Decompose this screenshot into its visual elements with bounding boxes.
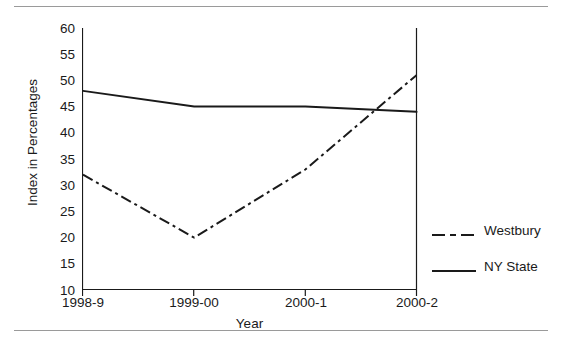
legend-label-westbury: Westbury xyxy=(484,223,541,238)
figure: 60 55 50 45 40 35 30 25 20 15 10 Index i… xyxy=(0,0,561,347)
y-tick-label: 30 xyxy=(45,179,75,193)
y-tick-label: 55 xyxy=(45,48,75,62)
y-tick-label: 25 xyxy=(45,205,75,219)
chart-legend: Westbury NY State xyxy=(432,216,557,288)
x-tick-label: 1999-00 xyxy=(169,295,219,310)
legend-swatch-ny-state xyxy=(432,262,476,272)
x-tick-label: 1998-9 xyxy=(62,295,104,310)
legend-label-ny-state: NY State xyxy=(484,259,538,274)
series-line-westbury xyxy=(83,75,417,237)
y-tick-label: 15 xyxy=(45,257,75,271)
legend-item-westbury: Westbury xyxy=(432,216,557,252)
x-tick-label: 2000-2 xyxy=(396,295,438,310)
x-axis-title: Year xyxy=(82,316,417,331)
series-line-ny-state xyxy=(83,91,417,112)
y-tick-label: 50 xyxy=(45,74,75,88)
y-tick-label: 20 xyxy=(45,231,75,245)
y-tick-label: 40 xyxy=(45,126,75,140)
legend-item-ny-state: NY State xyxy=(432,252,557,288)
x-axis-tick-labels: 1998-9 1999-00 2000-1 2000-2 xyxy=(0,295,561,315)
top-divider-rule xyxy=(14,6,548,7)
chart-canvas xyxy=(82,28,427,300)
y-tick-label: 35 xyxy=(45,153,75,167)
y-tick-label: 45 xyxy=(45,100,75,114)
y-tick-label: 60 xyxy=(45,22,75,36)
legend-swatch-westbury xyxy=(432,226,476,236)
y-axis-title: Index in Percentages xyxy=(25,43,40,243)
x-tick-label: 2000-1 xyxy=(285,295,327,310)
plot-area xyxy=(82,28,417,290)
